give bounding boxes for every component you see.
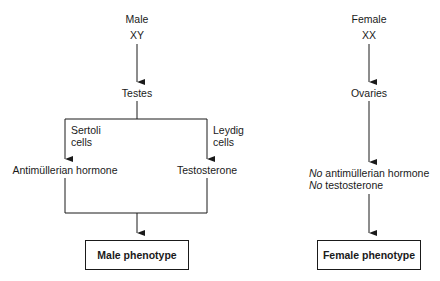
male-karyotype-label: XY: [130, 29, 144, 41]
ovaries-label: Ovaries: [351, 87, 387, 99]
sertoli-line2: cells: [71, 136, 101, 148]
male-phenotype-label: Male phenotype: [97, 249, 176, 261]
no-testosterone-text: testosterone: [322, 179, 383, 191]
no-amh-line: No antimüllerian hormone: [309, 167, 429, 179]
sertoli-line1: Sertoli: [71, 124, 101, 136]
leydig-cells-label: Leydig cells: [213, 124, 244, 148]
female-sex-label: Female: [351, 13, 386, 25]
male-phenotype-box: Male phenotype: [85, 240, 189, 270]
sertoli-cells-label: Sertoli cells: [71, 124, 101, 148]
no-amh-text: antimüllerian hormone: [322, 167, 429, 179]
no-testosterone-prefix: No: [309, 179, 322, 191]
no-testosterone-line: No testosterone: [309, 179, 429, 191]
no-hormones-label: No antimüllerian hormone No testosterone: [309, 167, 429, 191]
male-sex-label: Male: [126, 13, 149, 25]
female-phenotype-label: Female phenotype: [323, 249, 415, 261]
testosterone-label: Testosterone: [177, 164, 237, 176]
no-amh-prefix: No: [309, 167, 322, 179]
leydig-line2: cells: [213, 136, 244, 148]
antimullerian-hormone-label: Antimüllerian hormone: [12, 164, 117, 176]
female-karyotype-label: XX: [362, 29, 376, 41]
sex-differentiation-diagram: Male XY Testes Sertoli cells Leydig cell…: [0, 0, 440, 281]
testes-label: Testes: [122, 87, 152, 99]
female-phenotype-box: Female phenotype: [317, 240, 421, 270]
leydig-line1: Leydig: [213, 124, 244, 136]
